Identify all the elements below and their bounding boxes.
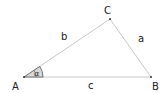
vertex-a-dot	[23, 76, 25, 78]
vertex-b-label: B	[152, 81, 159, 92]
vertex-c-dot	[109, 18, 111, 20]
side-c-label: c	[88, 80, 94, 91]
side-b-label: b	[61, 31, 67, 42]
angle-alpha-label: α	[34, 69, 40, 78]
side-a-label: a	[138, 33, 144, 44]
vertex-a-label: A	[12, 81, 19, 92]
vertex-b-dot	[150, 76, 152, 78]
side-a-line	[110, 19, 151, 77]
triangle-diagram: α A B C b a c	[0, 0, 167, 93]
vertex-c-label: C	[104, 5, 111, 16]
